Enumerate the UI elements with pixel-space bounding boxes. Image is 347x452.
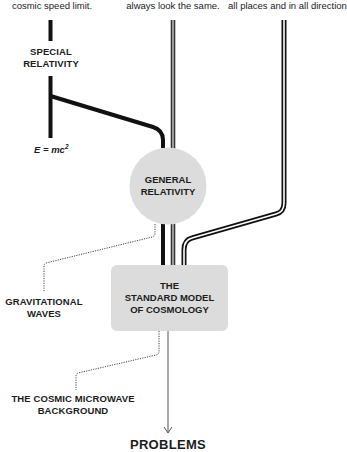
cmb-dotted-line	[76, 331, 159, 390]
standard-model-line1: THE	[160, 280, 179, 292]
cosmological-principle-line	[184, 20, 284, 266]
cmb-line1: THE COSMIC MICROWAVE	[8, 393, 138, 405]
formula-base: E = mc	[34, 144, 65, 155]
general-relativity-line1: GENERAL	[145, 174, 191, 186]
gravitational-waves-line2: WAVES	[0, 308, 88, 320]
caption-middle: always look the same.	[118, 0, 228, 11]
general-relativity-label: GENERAL RELATIVITY	[130, 168, 206, 204]
gravitational-waves-line1: GRAVITATIONAL	[0, 296, 88, 308]
cmb-label: THE COSMIC MICROWAVE BACKGROUND	[8, 393, 138, 417]
formula-exponent: 2	[65, 143, 69, 150]
cmb-line2: BACKGROUND	[8, 405, 138, 417]
arrow-to-problems	[164, 331, 172, 433]
special-relativity-line	[51, 20, 164, 148]
caption-right: all places and in all directions.	[228, 0, 347, 11]
standard-model-line2: STANDARD MODEL	[125, 292, 215, 304]
special-relativity-line1: SPECIAL	[10, 46, 92, 58]
special-relativity-label: SPECIAL RELATIVITY	[10, 46, 92, 70]
standard-model-line3: OF COSMOLOGY	[130, 304, 209, 316]
gravitational-waves-label: GRAVITATIONAL WAVES	[0, 296, 88, 320]
formula-emc2: E = mc2	[34, 143, 69, 155]
special-relativity-line2: RELATIVITY	[10, 58, 92, 70]
standard-model-label: THE STANDARD MODEL OF COSMOLOGY	[111, 274, 228, 322]
gr-to-standard-model-lines	[163, 224, 173, 266]
caption-left: cosmic speed limit.	[5, 0, 99, 11]
general-relativity-line2: RELATIVITY	[141, 186, 196, 198]
problems-label: PROBLEMS	[118, 437, 218, 452]
